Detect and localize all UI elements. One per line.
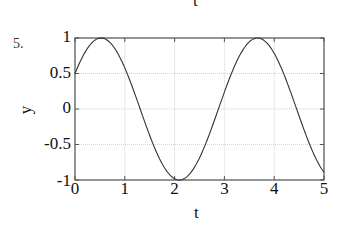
y-tick-label: -0.5 <box>31 134 71 154</box>
x-tick-label: 4 <box>264 179 284 199</box>
x-tick-label: 0 <box>65 179 85 199</box>
x-tick-label: 5 <box>314 179 334 199</box>
x-tick-label: 1 <box>115 179 135 199</box>
y-tick-label: 0.5 <box>31 63 71 83</box>
y-tick-label: 0 <box>31 98 71 118</box>
x-axis-label: t <box>194 203 199 223</box>
y-axis-label: y <box>16 100 36 120</box>
x-tick-label: 3 <box>214 179 234 199</box>
x-tick-label: 2 <box>165 179 185 199</box>
y-tick-label: 1 <box>31 27 71 47</box>
